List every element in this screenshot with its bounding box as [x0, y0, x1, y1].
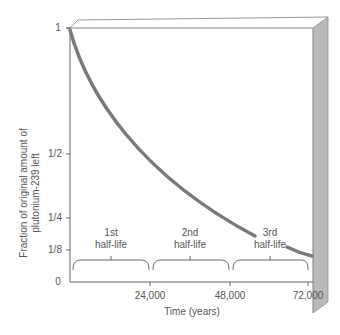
- y-axis-title-line-1: Fraction of original amount of: [18, 128, 29, 258]
- frame-side-panel: [313, 17, 328, 313]
- bracket-3rd: [233, 260, 308, 270]
- label-1st-line1: 1st: [104, 227, 118, 238]
- label-3rd-line2: half-life: [254, 239, 287, 250]
- y-tick-0: 0: [55, 276, 61, 287]
- y-tick-eighth: 1/8: [48, 244, 62, 255]
- x-tick-72000: 72,000: [293, 290, 324, 301]
- label-2nd-line1: 2nd: [182, 227, 199, 238]
- y-tick-half: 1/2: [48, 148, 62, 159]
- label-1st-line2: half-life: [95, 239, 128, 250]
- y-tick-labels: 1 1/2 1/4 1/8 0: [48, 22, 62, 287]
- frame-top-edge: [70, 17, 328, 28]
- label-2nd-line2: half-life: [174, 239, 207, 250]
- decay-curve-tail: [287, 247, 312, 256]
- label-3rd-line1: 3rd: [263, 227, 277, 238]
- half-life-labels: 1st half-life 2nd half-life 3rd half-lif…: [95, 227, 287, 250]
- y-axis-title: Fraction of original amount of plutonium…: [18, 128, 41, 258]
- x-tick-labels: 24,000 48,000 72,000: [135, 290, 324, 301]
- x-tick-24000: 24,000: [135, 290, 166, 301]
- bracket-1st: [73, 260, 149, 270]
- y-tick-quarter: 1/4: [48, 212, 62, 223]
- y-axis-title-line-2: plutonium-239 left: [30, 153, 41, 233]
- decay-curve: [70, 30, 255, 236]
- x-tick-48000: 48,000: [215, 290, 246, 301]
- plot-frame: [66, 17, 328, 313]
- bracket-2nd: [153, 260, 229, 270]
- half-life-chart: 1 1/2 1/4 1/8 0 24,000 48,000 72,000 Tim…: [0, 0, 340, 335]
- x-axis-title: Time (years): [164, 306, 220, 317]
- y-tick-1: 1: [55, 22, 61, 33]
- half-life-brackets: [73, 256, 308, 270]
